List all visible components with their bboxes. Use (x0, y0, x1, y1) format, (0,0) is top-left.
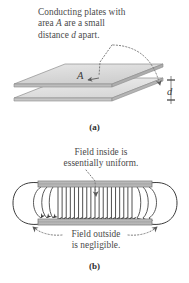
outside-field-label-line1: Field outside (46, 229, 146, 240)
inside-field-label-line1: Field inside is (75, 147, 128, 157)
fringe-loop-right (150, 182, 177, 224)
panel-b-bottom-plate (38, 219, 152, 225)
outside-field-label-line2: is negligible. (46, 240, 146, 251)
panel-b-label: (b) (0, 261, 189, 271)
inside-field-label-line2: essentially uniform. (64, 158, 139, 168)
inside-field-label: Field inside is essentially uniform. (48, 147, 154, 170)
uniform-field-lines (58, 186, 132, 219)
fringe-loop-left (13, 182, 40, 224)
parallel-plate-capacitor-figure: Conducting plates with area A are a smal… (0, 0, 189, 283)
fringe-lines-right (137, 187, 157, 218)
gap-label-d: d (167, 86, 173, 97)
fringe-lines-left (34, 187, 54, 218)
area-label-A: A (76, 70, 84, 81)
panel-a-label: (a) (0, 122, 189, 132)
